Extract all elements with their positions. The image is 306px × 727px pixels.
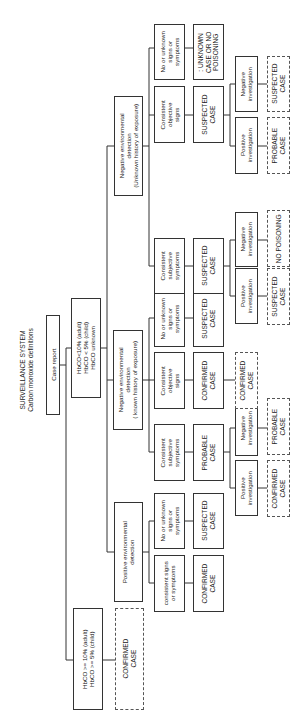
nk-sub-positive-investigation-label: Positive investigation: [239, 471, 253, 505]
nu-sub-positive-investigation-box: Positive investigation: [235, 268, 258, 324]
pe-consistent-result-box: CONFIRMED CASE: [193, 555, 224, 612]
pe-none-result-box: SUSPECTED CASE: [193, 493, 224, 549]
nu-none-box: No or unknown signs or symptoms: [154, 24, 185, 80]
nk-sub-negative-investigation-box: Negative investigation: [235, 401, 258, 456]
nk-objective-result-label: CONFIRMED CASE: [201, 361, 216, 401]
nu-obj-positive-investigation-box: Positive investigation: [235, 117, 258, 174]
nu-none-result-box: : UNKNOWN CASE OR NO POISONING: [193, 24, 224, 80]
negative-env-known-label: Negative environmental detection ( known…: [117, 341, 139, 419]
nk-objective-box: Consistent objective signs: [154, 352, 185, 409]
nu-sub-negative-outcome-label: NO POISONING: [275, 214, 283, 263]
nu-subjective-result-box: SUSPECTED CASE: [193, 238, 224, 294]
nu-objective-result-label: SUSPECTED CASE: [201, 94, 216, 134]
nk-subjective-label: Consistent subjective symptoms: [159, 438, 181, 467]
nu-sub-positive-outcome-box: SUSPECTED CASE: [267, 268, 290, 325]
nu-obj-negative-investigation-box: Negative investigation: [235, 56, 258, 112]
pe-consistent-result-label: CONFIRMED CASE: [201, 564, 216, 604]
nk-sub-negative-investigation-label: Negative investigation: [239, 411, 253, 445]
nk-subjective-result-label: PROBABLE CASE: [201, 435, 216, 471]
nu-obj-positive-outcome-label: PROBABLE CASE: [271, 128, 286, 164]
nu-sub-negative-investigation-label: Negative investigation: [239, 222, 253, 256]
nu-obj-positive-outcome-box: PROBABLE CASE: [267, 117, 290, 174]
nk-sub-positive-outcome-box: CONFIRMED CASE: [267, 460, 290, 517]
pe-none-label: No or unknown signs or symptoms: [159, 500, 181, 542]
pe-consistent-label: consistent signs or symptoms: [162, 561, 176, 605]
hbco-low-box: HbCO<10% (adult) HbCO < 5% (child) HbCO …: [71, 298, 101, 398]
nk-subjective-result-box: PROBABLE CASE: [193, 424, 224, 481]
hbco-low-label: HbCO<10% (adult) HbCO < 5% (child) HbCO …: [75, 322, 97, 374]
nu-obj-negative-outcome-box: SUSPECTED CASE: [267, 56, 290, 112]
nu-sub-negative-investigation-box: Negative investigation: [235, 212, 258, 267]
nu-subjective-result-label: SUSPECTED CASE: [201, 246, 216, 286]
pe-consistent-box: consistent signs or symptoms: [154, 555, 185, 612]
nu-none-label: No or unknown signs or symptoms: [159, 31, 181, 73]
case-report-label: Case report: [49, 349, 56, 381]
nk-objective-outcome-box: CONFIRMED CASE: [235, 352, 258, 409]
nk-sub-positive-investigation-box: Positive investigation: [235, 460, 258, 516]
nk-none-result-box: SUSPECTED CASE: [193, 290, 224, 347]
nk-subjective-box: Consistent subjective symptoms: [154, 424, 185, 481]
nk-objective-outcome-label: CONFIRMED CASE: [239, 361, 254, 401]
nk-sub-negative-outcome-label: PROBABLE CASE: [271, 409, 286, 445]
nk-sub-negative-outcome-box: PROBABLE CASE: [267, 398, 290, 455]
nu-objective-label: Consistent objective signs: [159, 100, 181, 129]
nu-obj-negative-investigation-label: Negative investigation: [239, 67, 253, 101]
diagram-title: SURVEILLANCE SYSTEM Carbon monoxide defi…: [14, 320, 40, 420]
nu-sub-positive-outcome-label: SUSPECTED CASE: [271, 276, 286, 316]
positive-env-box: Positive environmental detection: [114, 502, 143, 602]
nk-none-result-label: SUSPECTED CASE: [201, 298, 216, 338]
nk-none-box: No or unknown signs or symptoms: [154, 290, 185, 347]
nu-subjective-label: Consistent subjective symptoms: [159, 251, 181, 280]
nu-obj-negative-outcome-label: SUSPECTED CASE: [271, 64, 286, 104]
nk-objective-result-box: CONFIRMED CASE: [193, 352, 224, 409]
nu-objective-result-box: SUSPECTED CASE: [193, 86, 224, 143]
pe-none-box: No or unknown signs or symptoms: [154, 493, 185, 549]
hbco-high-label: HbCO >= 10% (adult) HbCO >= 5% (child): [81, 629, 95, 689]
nk-sub-positive-outcome-label: CONFIRMED CASE: [271, 469, 286, 509]
nu-objective-box: Consistent objective signs: [154, 86, 185, 143]
nu-obj-positive-investigation-label: Positive investigation: [239, 128, 253, 162]
nu-subjective-box: Consistent subjective symptoms: [154, 238, 185, 294]
nk-none-label: No or unknown signs or symptoms: [159, 298, 181, 340]
nu-none-result-label: : UNKNOWN CASE OR NO POISONING: [197, 31, 220, 72]
diagram-title-text: SURVEILLANCE SYSTEM Carbon monoxide defi…: [19, 328, 35, 412]
nu-sub-negative-outcome-box: NO POISONING: [267, 210, 290, 267]
negative-env-unknown-label: Negative environmental detection (Unknow…: [118, 104, 140, 188]
case-report-box: Case report: [46, 315, 60, 415]
negative-env-known-box: Negative environmental detection ( known…: [113, 330, 143, 430]
nu-sub-positive-investigation-label: Positive investigation: [239, 279, 253, 313]
pe-none-result-label: SUSPECTED CASE: [201, 501, 216, 541]
hbco-high-box: HbCO >= 10% (adult) HbCO >= 5% (child): [73, 608, 103, 710]
positive-env-label: Positive environmental detection: [121, 521, 135, 583]
confirmed-direct-label: CONFIRMED CASE: [122, 639, 137, 679]
confirmed-direct-box: CONFIRMED CASE: [115, 608, 144, 710]
nk-objective-label: Consistent objective signs: [159, 366, 181, 395]
negative-env-unknown-box: Negative environmental detection (Unknow…: [114, 96, 143, 196]
